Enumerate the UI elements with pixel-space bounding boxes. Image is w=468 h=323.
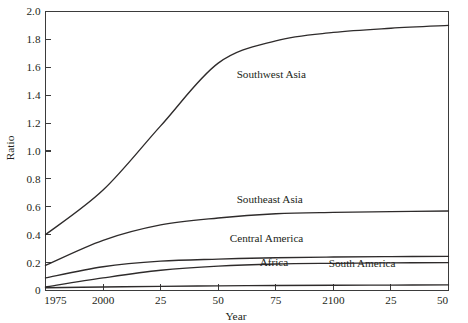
x-tick-label: 2100 (322, 294, 345, 306)
y-tick-label: 0.6 (27, 201, 41, 213)
series-label-southeast-asia: Southeast Asia (237, 193, 303, 205)
series-line-south-america (46, 285, 449, 288)
y-tick-label: 1.4 (27, 89, 41, 101)
x-tick-label: 50 (213, 294, 225, 306)
series-label-southwest-asia: Southwest Asia (237, 68, 306, 80)
series-label-africa: Africa (260, 256, 289, 268)
y-tick-label: 0 (35, 284, 41, 296)
series-inline-labels: Southwest AsiaSoutheast AsiaCentral Amer… (230, 68, 396, 269)
y-tick-label: 0.4 (27, 229, 41, 241)
x-axis-title: Year (226, 310, 247, 322)
x-tick-label: 25 (385, 294, 397, 306)
series-lines (46, 25, 449, 287)
y-tick-label: 1.2 (27, 117, 41, 129)
y-axis-ticks (46, 12, 52, 291)
x-axis-tick-labels: 1975200025507521002550 (44, 294, 448, 306)
y-tick-label: 1.8 (27, 33, 41, 45)
x-tick-label: 50 (437, 294, 449, 306)
y-tick-label: 1.0 (27, 145, 41, 157)
ratio-vs-year-line-chart: 00.20.40.60.81.01.21.41.61.82.0 19752000… (0, 0, 468, 323)
y-tick-label: 1.6 (27, 61, 41, 73)
y-tick-label: 0.8 (27, 173, 41, 185)
y-axis-title: Ratio (4, 135, 16, 160)
series-label-south-america: South America (329, 257, 396, 269)
y-tick-label: 0.2 (27, 257, 41, 269)
x-tick-label: 2000 (92, 294, 115, 306)
axis-frame (46, 12, 449, 291)
y-tick-label: 2.0 (27, 5, 41, 17)
x-tick-label: 75 (270, 294, 282, 306)
x-tick-label: 1975 (44, 294, 67, 306)
chart-container: 00.20.40.60.81.01.21.41.61.82.0 19752000… (0, 0, 468, 323)
x-tick-label: 25 (155, 294, 167, 306)
plot-frame (46, 12, 449, 291)
y-axis-tick-labels: 00.20.40.60.81.01.21.41.61.82.0 (27, 5, 41, 296)
series-label-central-america: Central America (230, 232, 304, 244)
